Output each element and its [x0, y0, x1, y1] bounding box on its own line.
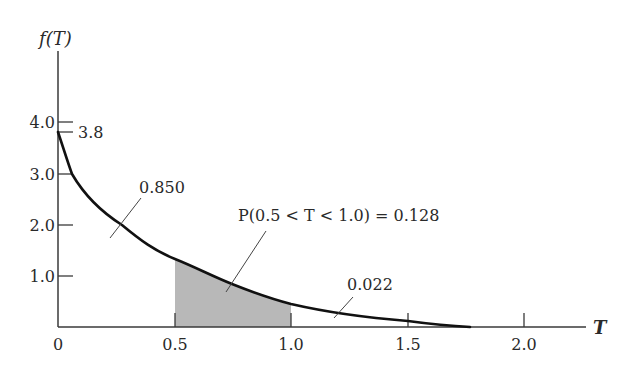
x-tick-label-0: 0 — [53, 335, 63, 354]
x-tick-label-0.5: 0.5 — [162, 335, 187, 354]
pdf-chart: f(T) T 4.0 3.0 2.0 1.0 3.8 0 0.5 1.0 1.5… — [0, 0, 624, 368]
annotation-right-area: 0.022 — [347, 275, 393, 294]
y-tick-label-2: 2.0 — [30, 216, 55, 235]
y-tick-label-3: 3.0 — [30, 165, 55, 184]
y-tick-label-1: 1.0 — [30, 267, 55, 286]
annotation-left-area: 0.850 — [139, 178, 185, 197]
leader-mid — [226, 231, 266, 292]
leader-left — [110, 198, 141, 238]
annotation-probability: P(0.5 < T < 1.0) = 0.128 — [238, 206, 439, 225]
x-tick-label-1.5: 1.5 — [395, 335, 420, 354]
shaded-probability-region — [175, 259, 291, 327]
x-axis-title: T — [593, 317, 608, 338]
y-value-label-3.8: 3.8 — [78, 123, 103, 142]
x-tick-label-2.0: 2.0 — [511, 335, 536, 354]
x-tick-label-1.0: 1.0 — [278, 335, 303, 354]
y-tick-label-4: 4.0 — [30, 113, 55, 132]
y-axis-title: f(T) — [37, 28, 72, 49]
